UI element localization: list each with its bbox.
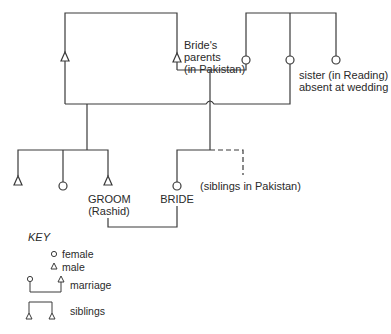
brides-parents-label-line1: Bride's (184, 39, 245, 51)
key-siblings-label: siblings (70, 305, 105, 317)
key-siblings-icon (26, 302, 55, 319)
bride-father-male-icon (173, 53, 181, 62)
top-left-sibling-bracket (65, 13, 177, 104)
key-male-label: male (62, 261, 85, 273)
groom-mother-female-icon (286, 56, 294, 64)
groom-label-line2: (Rashid) (88, 205, 130, 217)
sister-label: sister (in Reading) absent at wedding (299, 69, 388, 93)
groom-father-male-icon (61, 52, 69, 61)
key-female-label: female (62, 248, 94, 260)
bride-female-icon (173, 182, 181, 190)
brides-parents-label-line3: (in Pakistan) (184, 63, 245, 75)
brides-parents-label-line2: parents (184, 51, 245, 63)
sister-female-icon (332, 56, 340, 64)
bride-siblings-bracket (177, 150, 243, 182)
key-marriage-icon (27, 276, 64, 292)
groom-label-line1: GROOM (88, 193, 130, 205)
key-female-icon (51, 251, 56, 256)
key-title: KEY (28, 231, 50, 243)
groom-brother-male-icon (14, 176, 22, 185)
groom-siblings-bracket (18, 150, 108, 182)
groom-label: GROOM (Rashid) (88, 193, 130, 217)
bride-label: BRIDE (157, 193, 197, 205)
key-marriage-label: marriage (70, 279, 111, 291)
sister-label-line2: absent at wedding (299, 81, 388, 93)
right-sibling-bracket (246, 13, 336, 56)
brides-parents-label: Bride's parents (in Pakistan) (184, 39, 245, 75)
groom-sister-female-icon (59, 182, 67, 190)
key-male-icon (51, 263, 57, 269)
siblings-in-pakistan-label: (siblings in Pakistan) (200, 180, 301, 192)
groom-male-icon (104, 176, 112, 185)
sister-label-line1: sister (in Reading) (299, 69, 388, 81)
